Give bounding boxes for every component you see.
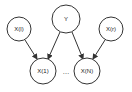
graphical-model-diagram: X(l) Y X(r) X(1) X(N) … xyxy=(0,0,132,92)
node-xr: X(r) xyxy=(99,17,123,41)
node-label: X(1) xyxy=(37,68,48,74)
node-label: X(r) xyxy=(106,26,116,32)
edge-xr-to-xn xyxy=(93,40,105,59)
node-label: Y xyxy=(64,16,68,22)
node-xl: X(l) xyxy=(7,17,31,41)
edge-xl-to-x1 xyxy=(25,40,37,59)
edge-y-to-x1 xyxy=(48,32,60,59)
node-x1: X(1) xyxy=(30,58,56,84)
node-xn: X(N) xyxy=(74,58,100,84)
edge-y-to-xn xyxy=(72,32,83,59)
ellipsis: … xyxy=(63,68,70,75)
node-label: X(l) xyxy=(14,26,23,32)
node-label: X(N) xyxy=(81,68,93,74)
node-y: Y xyxy=(52,5,80,33)
